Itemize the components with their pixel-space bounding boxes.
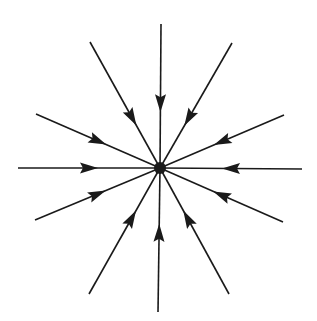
line-lower-right xyxy=(160,168,283,222)
line-top xyxy=(155,24,166,168)
field-line xyxy=(160,43,232,168)
field-line xyxy=(160,168,229,294)
line-lower-left xyxy=(35,168,160,220)
line-top-right xyxy=(160,43,232,168)
center-charge xyxy=(154,162,166,174)
radial-field-diagram xyxy=(0,0,317,321)
field-line xyxy=(90,42,160,168)
line-top-left xyxy=(90,42,160,168)
field-line xyxy=(160,24,161,168)
line-right xyxy=(160,163,302,174)
arrowhead-icon xyxy=(123,107,137,125)
field-line xyxy=(89,168,160,294)
line-upper-right xyxy=(160,115,284,168)
line-bottom-left xyxy=(89,168,160,294)
line-upper-left xyxy=(36,114,160,168)
line-left xyxy=(18,163,160,174)
arrowhead-icon xyxy=(122,211,136,229)
line-bottom-right xyxy=(160,168,229,294)
arrowhead-icon xyxy=(184,107,198,125)
arrowhead-icon xyxy=(183,211,196,229)
line-bottom xyxy=(153,168,164,312)
field-line xyxy=(158,168,160,312)
